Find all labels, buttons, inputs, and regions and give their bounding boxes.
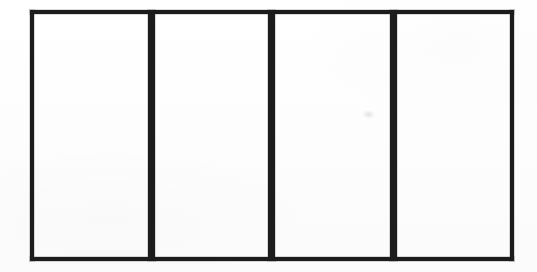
panel-1 [34,14,148,257]
panel-2 [155,14,268,257]
outer-rectangle-right-edge [510,10,514,261]
divider-2 [268,10,275,261]
divider-3 [390,10,397,261]
panel-4 [397,14,510,257]
figure-canvas [0,0,537,272]
divider-1 [148,10,155,261]
panel-3 [275,14,390,257]
